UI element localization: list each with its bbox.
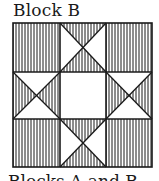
corner-cell-bottom-left [13, 119, 60, 167]
figure-caption: Blocks A and B [8, 170, 138, 181]
figure-title: Block B [13, 0, 80, 21]
corner-cell-top-left [13, 23, 60, 72]
corner-cell-bottom-right [106, 119, 152, 167]
corner-cell-top-right [106, 23, 152, 72]
quilt-block-diagram [12, 22, 153, 168]
